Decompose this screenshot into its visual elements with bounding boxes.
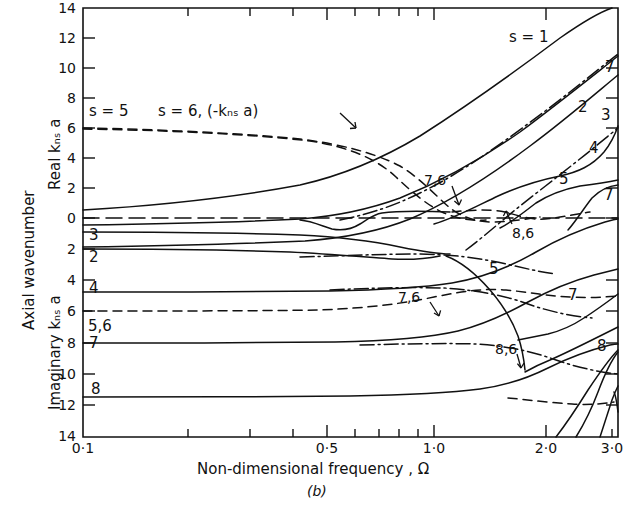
curve-label-7-lower: 7 [568, 288, 578, 303]
curve-7-imag [83, 269, 618, 343]
ytick-real-14: 14 [48, 1, 76, 15]
y-axis-ticks [83, 38, 618, 405]
curve-dashed-imag-bottom [508, 398, 614, 404]
xtick-0-5: 0·5 [309, 441, 345, 455]
curve-label-2-left: 2 [89, 250, 99, 265]
ytick-imag-4: 4 [48, 273, 76, 287]
annotation-86-upper: 8,6 [512, 226, 534, 240]
xtick-2-0: 2·0 [528, 441, 564, 455]
curve-s5-dashed-real [83, 128, 540, 222]
ytick-imag-8: 8 [48, 336, 76, 350]
curve-label-7-left: 7 [89, 336, 99, 351]
ytick-real-2: 2 [48, 181, 76, 195]
annotation-arrows [340, 113, 524, 368]
ytick-real-0: 0 [48, 211, 76, 225]
curve-label-s6: s = 6, (-kₙₛ a) [158, 104, 258, 119]
curve-2-dashdot-real [340, 54, 618, 220]
curve-label-8-lower: 8 [597, 339, 607, 354]
curve-label-5-lower: 5 [489, 262, 499, 277]
curve-label-s1: s = 1 [509, 30, 548, 45]
curve-label-5-right: 5 [559, 172, 569, 187]
ytick-real-12: 12 [48, 31, 76, 45]
figure-dispersion-curves: Axial wavenumber Real kₙₛ a Imaginary kₙ… [0, 0, 632, 505]
ytick-imag-12: 12 [45, 398, 76, 412]
ytick-real-4: 4 [48, 151, 76, 165]
annotation-76-upper: 7,6 [424, 173, 446, 187]
curve-imag-rightedge-hook [600, 386, 618, 437]
annotation-86-lower: 8,6 [495, 342, 517, 356]
curve-label-2-right: 2 [578, 100, 588, 115]
curve-8-imag [83, 344, 618, 397]
curve-dashdot-imag-3 [360, 344, 618, 374]
ytick-real-8: 8 [48, 91, 76, 105]
xtick-0-1: 0·1 [65, 441, 101, 455]
curve-8-imag-lower [556, 350, 618, 437]
curve-dashdot-imag-1 [300, 254, 556, 274]
curve-label-4-right: 4 [589, 141, 599, 156]
annotation-76-lower: 7,6 [398, 290, 420, 304]
curve-label-7-topright: 7 [605, 60, 615, 75]
ytick-imag-2: 2 [48, 242, 76, 256]
curve-label-3-right: 3 [601, 108, 611, 123]
ytick-real-6: 6 [48, 121, 76, 135]
curve-label-3-left: 3 [89, 228, 99, 243]
curve-label-s5: s = 5 [89, 104, 128, 119]
ytick-imag-6: 6 [48, 304, 76, 318]
curve-label-56-left: 5,6 [88, 319, 112, 334]
ytick-real-10: 10 [48, 61, 76, 75]
xtick-1-0: 1·0 [416, 441, 452, 455]
curve-label-8-left: 8 [91, 382, 101, 397]
curve-label-7-right: 7 [604, 188, 614, 203]
curve-3-real [83, 75, 618, 247]
ytick-imag-10: 10 [45, 367, 76, 381]
xtick-3-0: 3·0 [594, 441, 630, 455]
curve-label-4-left: 4 [89, 281, 99, 296]
